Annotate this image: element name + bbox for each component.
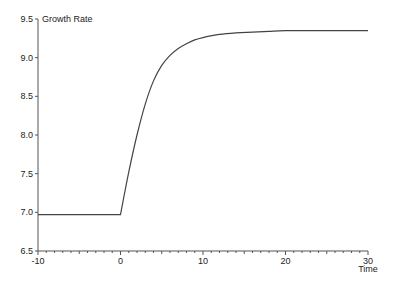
- y-tick-label: 7.0: [20, 207, 33, 217]
- y-axis-title: Growth Rate: [42, 14, 93, 24]
- y-tick-label: 7.5: [20, 169, 33, 179]
- x-tick-label: 10: [198, 256, 208, 266]
- line-chart: 6.57.07.58.08.59.09.5-100102030 Growth R…: [0, 0, 395, 289]
- axes: 6.57.07.58.08.59.09.5-100102030: [20, 14, 373, 266]
- y-tick-label: 8.5: [20, 91, 33, 101]
- series-line: [38, 31, 368, 215]
- x-tick-label: 0: [118, 256, 123, 266]
- y-tick-label: 9.5: [20, 14, 33, 24]
- plot-area: [38, 31, 368, 215]
- x-axis-title: Time: [358, 264, 378, 274]
- y-tick-label: 6.5: [20, 246, 33, 256]
- x-tick-label: 20: [280, 256, 290, 266]
- y-tick-label: 9.0: [20, 53, 33, 63]
- x-tick-label: -10: [31, 256, 44, 266]
- y-tick-label: 8.0: [20, 130, 33, 140]
